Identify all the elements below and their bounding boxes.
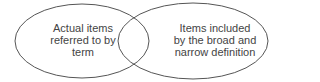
label-line: narrow definition <box>165 46 265 58</box>
label-line: Actual items <box>38 22 128 34</box>
label-line: referred to by <box>38 34 128 46</box>
right-circle-label: Items included by the broad and narrow d… <box>165 22 265 58</box>
left-circle-label: Actual items referred to by term <box>38 22 128 58</box>
label-line: Items included <box>165 22 265 34</box>
label-line: term <box>38 46 128 58</box>
label-line: by the broad and <box>165 34 265 46</box>
